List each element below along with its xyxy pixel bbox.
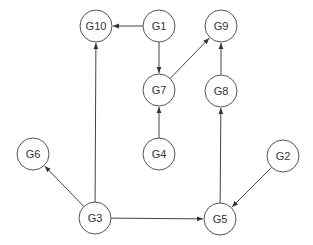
- node-label: G9: [214, 20, 229, 32]
- edge-g3-to-g10: [95, 43, 96, 202]
- node-label: G2: [276, 150, 291, 162]
- node-g3: G3: [79, 202, 111, 234]
- node-label: G4: [152, 148, 167, 160]
- node-g4: G4: [143, 138, 175, 170]
- node-label: G5: [213, 213, 228, 225]
- node-g10: G10: [80, 10, 112, 42]
- node-label: G6: [26, 148, 41, 160]
- edge-g3-to-g6: [45, 166, 84, 206]
- node-g8: G8: [205, 75, 237, 107]
- edge-g5-to-g8: [220, 108, 221, 203]
- edge-g3-to-g5: [111, 218, 203, 219]
- node-g9: G9: [205, 10, 237, 42]
- node-g1: G1: [143, 10, 175, 42]
- node-g5: G5: [204, 203, 236, 235]
- node-label: G3: [88, 212, 103, 224]
- graph-diagram: G10G1G9G7G8G6G4G2G3G5: [0, 0, 313, 245]
- node-label: G10: [86, 20, 107, 32]
- nodes-layer: G10G1G9G7G8G6G4G2G3G5: [17, 10, 299, 235]
- edges-layer: [45, 26, 272, 219]
- node-g2: G2: [267, 140, 299, 172]
- node-g6: G6: [17, 138, 49, 170]
- node-label: G1: [152, 20, 167, 32]
- node-label: G8: [214, 85, 229, 97]
- node-g7: G7: [143, 74, 175, 106]
- edge-g7-to-g9: [170, 38, 209, 78]
- node-label: G7: [152, 84, 167, 96]
- edge-g2-to-g5: [232, 167, 272, 207]
